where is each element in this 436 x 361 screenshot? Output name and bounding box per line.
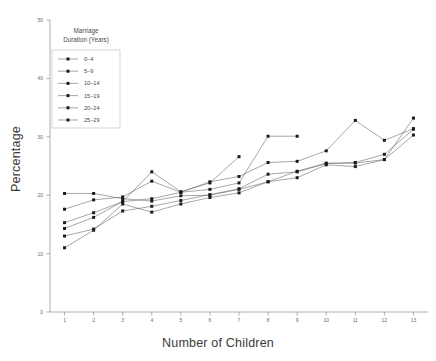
y-tick-label: 40 bbox=[37, 75, 43, 81]
data-point bbox=[150, 197, 153, 200]
data-point bbox=[354, 165, 357, 168]
data-point bbox=[412, 117, 415, 120]
data-point bbox=[354, 119, 357, 122]
data-point bbox=[354, 162, 357, 165]
legend-item-label: 15–19 bbox=[84, 93, 100, 99]
x-tick-label: 11 bbox=[353, 317, 358, 323]
data-series bbox=[63, 117, 415, 250]
data-point bbox=[179, 194, 182, 197]
data-point bbox=[150, 180, 153, 183]
data-point bbox=[383, 158, 386, 161]
legend-item-5[interactable]: 25–29 bbox=[58, 117, 100, 123]
data-point bbox=[267, 180, 270, 183]
legend-marker-swatch bbox=[67, 106, 70, 109]
data-point bbox=[208, 188, 211, 191]
data-point bbox=[63, 208, 66, 211]
x-tick-label: 13 bbox=[411, 317, 417, 323]
legend-item-label: 25–29 bbox=[84, 117, 100, 123]
data-point bbox=[412, 128, 415, 131]
x-tick-label: 4 bbox=[150, 317, 153, 323]
x-axis-ticks: 12345678910111213 bbox=[63, 312, 416, 323]
legend-item-label: 5–9 bbox=[84, 68, 93, 74]
x-tick-label: 1 bbox=[63, 317, 66, 323]
x-tick-label: 12 bbox=[382, 317, 388, 323]
data-point bbox=[150, 170, 153, 173]
data-point bbox=[325, 149, 328, 152]
data-point bbox=[412, 134, 415, 137]
data-point bbox=[63, 227, 66, 230]
x-tick-label: 5 bbox=[179, 317, 182, 323]
legend-item-4[interactable]: 20–24 bbox=[58, 105, 100, 111]
legend-marker-swatch bbox=[67, 119, 70, 122]
data-point bbox=[267, 135, 270, 138]
data-point bbox=[383, 153, 386, 156]
data-point bbox=[238, 175, 241, 178]
legend-item-1[interactable]: 5–9 bbox=[58, 68, 93, 74]
series-line bbox=[65, 120, 414, 209]
data-point bbox=[92, 216, 95, 219]
x-tick-label: 10 bbox=[323, 317, 329, 323]
legend-item-label: 0–4 bbox=[84, 56, 93, 62]
data-point bbox=[238, 191, 241, 194]
data-point bbox=[238, 155, 241, 158]
axes bbox=[50, 20, 428, 312]
data-point bbox=[325, 162, 328, 165]
y-tick-label: 30 bbox=[37, 134, 43, 140]
data-point bbox=[63, 235, 66, 238]
legend-item-2[interactable]: 10–14 bbox=[58, 80, 100, 86]
data-point bbox=[296, 160, 299, 163]
legend-marker-swatch bbox=[67, 70, 70, 73]
series-line bbox=[65, 136, 298, 228]
data-point bbox=[208, 193, 211, 196]
data-point bbox=[121, 209, 124, 212]
data-point bbox=[63, 192, 66, 195]
y-axis-ticks: 01020304050 bbox=[37, 17, 50, 315]
chart-legend: MarriageDuration (Years)0–45–910–1415–19… bbox=[52, 27, 120, 128]
data-point bbox=[208, 181, 211, 184]
data-point bbox=[179, 199, 182, 202]
x-tick-label: 6 bbox=[209, 317, 212, 323]
series-2 bbox=[63, 155, 240, 224]
data-point bbox=[121, 195, 124, 198]
data-point bbox=[63, 221, 66, 224]
x-tick-label: 2 bbox=[92, 317, 95, 323]
data-point bbox=[121, 202, 124, 205]
legend-item-3[interactable]: 15–19 bbox=[58, 93, 100, 99]
data-point bbox=[238, 187, 241, 190]
data-point bbox=[92, 192, 95, 195]
y-tick-label: 50 bbox=[37, 17, 43, 23]
x-tick-label: 8 bbox=[267, 317, 270, 323]
x-tick-label: 3 bbox=[121, 317, 124, 323]
series-5 bbox=[63, 134, 415, 250]
y-tick-label: 20 bbox=[37, 192, 43, 198]
data-point bbox=[92, 198, 95, 201]
data-point bbox=[179, 191, 182, 194]
legend-title-line2: Duration (Years) bbox=[63, 36, 109, 44]
data-point bbox=[296, 170, 299, 173]
data-point bbox=[296, 135, 299, 138]
data-point bbox=[150, 211, 153, 214]
y-tick-label: 10 bbox=[37, 251, 43, 257]
line-chart-plot: 01020304050 12345678910111213 MarriageDu… bbox=[0, 0, 436, 361]
data-point bbox=[267, 161, 270, 164]
data-point bbox=[296, 176, 299, 179]
legend-marker-swatch bbox=[67, 58, 70, 61]
data-point bbox=[92, 229, 95, 232]
data-point bbox=[267, 173, 270, 176]
y-tick-label: 0 bbox=[40, 309, 43, 315]
legend-item-label: 20–24 bbox=[84, 105, 100, 111]
data-point bbox=[92, 211, 95, 214]
series-3 bbox=[63, 135, 299, 230]
data-point bbox=[208, 196, 211, 199]
data-point bbox=[63, 246, 66, 249]
legend-title-line1: Marriage bbox=[74, 27, 99, 35]
data-point bbox=[179, 202, 182, 205]
legend-marker-swatch bbox=[67, 82, 70, 85]
data-point bbox=[383, 139, 386, 142]
legend-marker-swatch bbox=[67, 94, 70, 97]
chart-figure: Percentage Number of Children 0102030405… bbox=[0, 0, 436, 361]
legend-item-label: 10–14 bbox=[84, 80, 100, 86]
legend-item-0[interactable]: 0–4 bbox=[58, 56, 93, 62]
data-point bbox=[238, 181, 241, 184]
data-point bbox=[150, 205, 153, 208]
